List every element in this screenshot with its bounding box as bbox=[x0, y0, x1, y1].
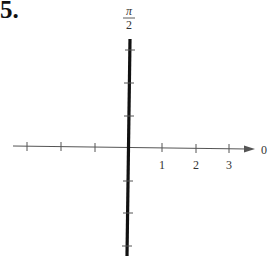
polar-plot: π 2 0 1 2 3 bbox=[0, 0, 271, 269]
angle-label-pi-over-2: π 2 bbox=[123, 4, 135, 32]
pi-label: π bbox=[126, 4, 133, 18]
arrow-icon bbox=[244, 146, 255, 153]
polar-axis bbox=[13, 142, 255, 153]
tick-label-2: 2 bbox=[193, 158, 199, 172]
angle-label-zero: 0 bbox=[261, 143, 267, 157]
tick-label-1: 1 bbox=[159, 158, 165, 172]
denominator-label: 2 bbox=[126, 18, 132, 32]
tick-label-3: 3 bbox=[226, 158, 232, 172]
